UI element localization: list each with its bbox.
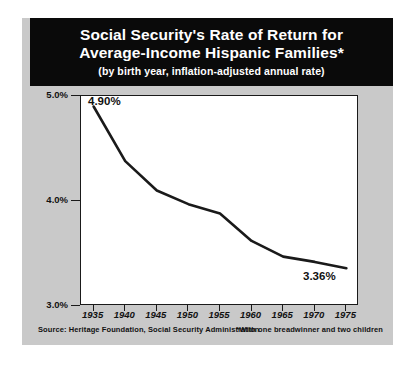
x-axis-label: 1975	[325, 309, 365, 320]
title-line-2: Average-Income Hispanic Families*	[79, 44, 344, 61]
y-tick-mark	[71, 305, 80, 306]
data-label-start: 4.90%	[88, 95, 121, 107]
title-bar: Social Security's Rate of Return for Ave…	[30, 18, 393, 86]
chart-figure: Social Security's Rate of Return for Ave…	[0, 0, 415, 365]
y-tick-mark	[71, 200, 80, 201]
y-axis-label: 4.0%	[22, 194, 68, 205]
source-note: Source: Heritage Foundation, Social Secu…	[38, 325, 260, 334]
title-line-1: Social Security's Rate of Return for	[80, 26, 343, 43]
y-axis-label: 3.0%	[22, 299, 68, 310]
y-axis-label: 5.0%	[22, 89, 68, 100]
footnote: *With one breadwinner and two children	[236, 325, 383, 334]
y-tick-mark	[71, 95, 80, 96]
data-label-end: 3.36%	[303, 270, 336, 282]
chart-subtitle: (by birth year, inflation-adjusted annua…	[98, 66, 324, 78]
